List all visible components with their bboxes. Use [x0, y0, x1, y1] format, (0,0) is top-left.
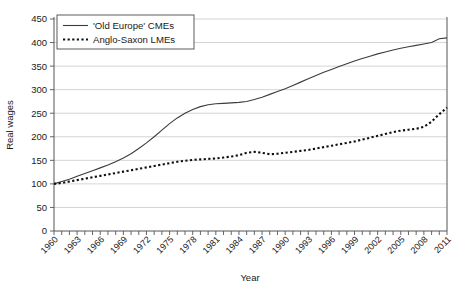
- x-axis-ticks-group: [54, 231, 447, 235]
- x-axis-tick-label: 2011: [432, 234, 453, 255]
- legend-label-cmes: 'Old Europe' CMEs: [93, 20, 174, 31]
- x-axis-title: Year: [240, 272, 259, 283]
- series-line-lmes: [54, 108, 447, 184]
- x-axis-tick-label: 1969: [108, 234, 129, 255]
- x-axis-tick-label: 1963: [62, 234, 83, 255]
- y-axis-tick-label: 150: [31, 155, 47, 166]
- data-series-group: [54, 38, 447, 184]
- x-axis-tick-label: 2008: [409, 234, 430, 255]
- x-axis-tick-label: 1975: [154, 234, 175, 255]
- x-axis-tick-label: 1984: [224, 234, 245, 255]
- x-axis-tick-label: 1996: [316, 234, 337, 255]
- y-axis-ticks-group: [50, 19, 54, 231]
- legend-label-lmes: Anglo-Saxon LMEs: [93, 34, 175, 45]
- y-axis-tick-label: 250: [31, 108, 47, 119]
- x-axis-tick-label: 1993: [293, 234, 314, 255]
- real-wages-line-chart: 050100150200250300350400450 196019631966…: [0, 0, 467, 287]
- y-axis-tick-label: 400: [31, 37, 47, 48]
- x-axis-tick-labels-group: 1960196319661969197219751978198119841987…: [39, 234, 453, 255]
- y-axis-tick-label: 0: [42, 225, 47, 236]
- x-axis-tick-label: 1990: [270, 234, 291, 255]
- y-axis-tick-label: 50: [36, 202, 47, 213]
- x-axis-tick-label: 1966: [85, 234, 106, 255]
- chart-legend: 'Old Europe' CMEs Anglo-Saxon LMEs: [57, 15, 194, 49]
- x-axis-tick-label: 2002: [362, 234, 383, 255]
- x-axis-tick-label: 1972: [131, 234, 152, 255]
- y-axis-tick-label: 350: [31, 61, 47, 72]
- x-axis-tick-label: 2005: [385, 234, 406, 255]
- y-axis-tick-label: 450: [31, 13, 47, 24]
- x-axis-tick-label: 1987: [247, 234, 268, 255]
- y-axis-tick-label: 300: [31, 84, 47, 95]
- y-axis-tick-label: 200: [31, 131, 47, 142]
- y-axis-tick-labels-group: 050100150200250300350400450: [31, 13, 47, 236]
- x-axis-tick-label: 1960: [39, 234, 60, 255]
- chart-svg: 050100150200250300350400450 196019631966…: [0, 0, 467, 287]
- x-axis-tick-label: 1999: [339, 234, 360, 255]
- x-axis-tick-label: 1978: [177, 234, 198, 255]
- y-axis-tick-label: 100: [31, 178, 47, 189]
- series-line-cmes: [54, 38, 447, 184]
- y-axis-title: Real wages: [4, 100, 15, 150]
- x-axis-tick-label: 1981: [201, 234, 222, 255]
